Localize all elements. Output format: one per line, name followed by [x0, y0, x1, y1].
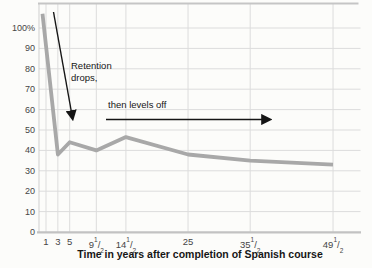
- annotation-retention-line2: drops,: [71, 72, 112, 84]
- y-tick-label: 0: [0, 227, 35, 237]
- y-tick-label: 20: [0, 186, 35, 196]
- retention-forgetting-curve-figure: 100%9080706050403020100 13591/2141/22535…: [0, 0, 372, 268]
- gridlines: [39, 4, 361, 233]
- y-tick-label: 90: [0, 43, 35, 53]
- annotation-then-levels-off: then levels off: [108, 99, 166, 111]
- y-tick-label: 40: [0, 145, 35, 155]
- y-tick-label: 60: [0, 105, 35, 115]
- x-tick-label: 25: [166, 237, 210, 247]
- y-tick-label: 50: [0, 125, 35, 135]
- y-tick-label: 30: [0, 166, 35, 176]
- annotation-retention-drops: Retention drops,: [71, 60, 112, 83]
- x-axis-title: Time in years after completion of Spanis…: [39, 248, 361, 260]
- y-tick-label: 80: [0, 64, 35, 74]
- annotation-retention-line1: Retention: [71, 60, 112, 72]
- chart-canvas: [0, 0, 372, 268]
- y-tick-label: 100%: [0, 23, 35, 33]
- y-tick-label: 10: [0, 207, 35, 217]
- y-tick-label: 70: [0, 84, 35, 94]
